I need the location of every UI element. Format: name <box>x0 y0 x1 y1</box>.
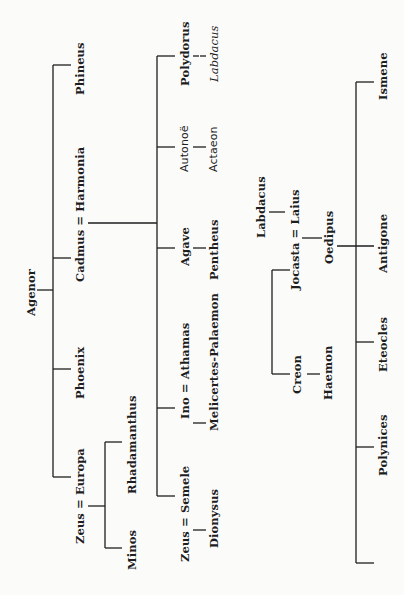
person-labdacus: Labdacus <box>255 176 267 238</box>
person-autonoe: Autonoë <box>179 125 191 172</box>
couple-zeus-europa: Zeus = Europa <box>74 448 86 544</box>
person-actaeon: Actaeon <box>208 126 220 172</box>
person-rhadamanthus: Rhadamanthus <box>126 395 138 494</box>
couple-zeus-semele: Zeus = Semele <box>179 466 191 562</box>
person-oedipus: Oedipus <box>323 211 335 264</box>
person-labdacus-italic: Labdacus <box>208 25 220 82</box>
person-creon: Creon <box>291 355 303 394</box>
person-phoenix: Phoenix <box>74 347 86 399</box>
person-minos: Minos <box>126 530 138 570</box>
person-melicertes-palaemon: Melicertes-Palaemon <box>208 293 220 431</box>
person-agenor: Agenor <box>25 269 37 316</box>
person-polydorus: Polydorus <box>179 21 191 86</box>
person-antigone: Antigone <box>377 214 389 273</box>
couple-jocasta-laius: Jocasta = Laius <box>289 189 301 290</box>
tree-lines <box>0 0 404 595</box>
person-ismene: Ismene <box>377 52 389 100</box>
person-agave: Agave <box>179 227 191 266</box>
couple-ino-athamas: Ino = Athamas <box>179 323 191 419</box>
couple-cadmus-harmonia: Cadmus = Harmonia <box>74 147 86 282</box>
person-dionysus: Dionysus <box>208 489 220 548</box>
person-eteocles: Eteocles <box>377 317 389 372</box>
person-polynices: Polynices <box>377 415 389 476</box>
person-haemon: Haemon <box>322 346 334 400</box>
person-pentheus: Pentheus <box>208 219 220 280</box>
person-phineus: Phineus <box>74 42 86 95</box>
